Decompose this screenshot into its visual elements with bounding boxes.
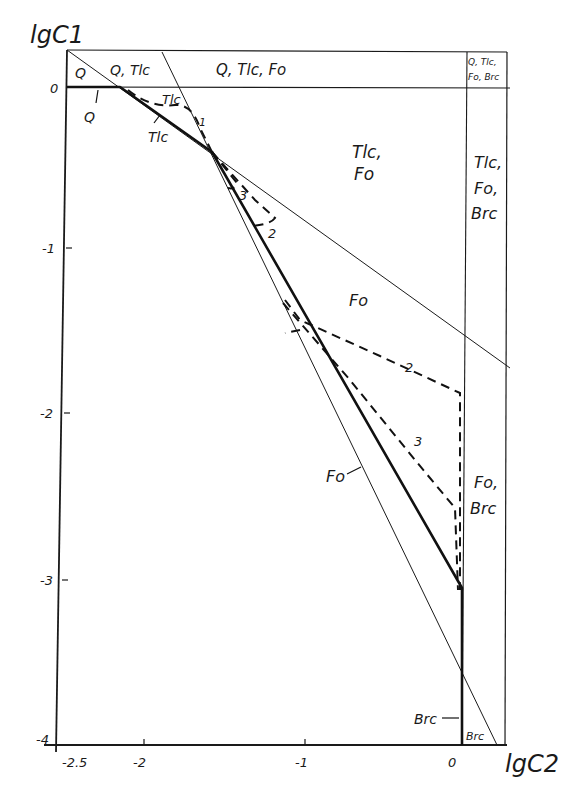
top-border [67, 50, 507, 52]
arrows [96, 90, 459, 718]
fo-arrow-icon [347, 467, 361, 474]
x-tick-3: 0 [448, 755, 456, 770]
thin-lines [67, 50, 510, 745]
field-corner-1: Q, Tlc, [468, 57, 497, 67]
label-tlc-dash: Tlc [162, 92, 181, 107]
zero-line [67, 87, 510, 88]
field-fo: Fo [349, 291, 368, 310]
field-right-fo: Fo, [474, 179, 498, 198]
axes [44, 50, 510, 752]
phase-diagram: lgC1 lgC2 0 -1 -2 -3 -4 -2.5 -2 -1 0 Q Q… [0, 0, 563, 808]
x-tick-1: -2 [133, 755, 146, 770]
curve-3-upper [212, 152, 237, 188]
dashed-curves [128, 90, 460, 590]
field-q: Q [75, 65, 86, 81]
x-axis-title: lgC2 [505, 750, 559, 778]
field-right-brc: Brc [471, 204, 498, 223]
y-axis [56, 50, 67, 752]
x-tick-2: -1 [295, 755, 308, 770]
label-curve-3-upper: 3 [239, 188, 247, 203]
field-corner-2: Fo, Brc [468, 72, 499, 82]
label-curve-3-lower: 3 [414, 434, 422, 449]
label-curve-1: 1 [199, 116, 206, 129]
field-q-tlc-fo: Q, Tlc, Fo [216, 61, 286, 79]
q-arrow-icon [96, 90, 98, 103]
field-tlc-fo-2: Fo [354, 164, 374, 184]
field-q-tlc: Q, Tlc [110, 62, 150, 78]
label-fo-arrow: Fo [326, 467, 345, 486]
field-fo-brc-2: Brc [470, 499, 497, 518]
x-tick-0: -2.5 [62, 755, 87, 770]
right-border [505, 52, 507, 745]
field-fo-brc-1: Fo, [474, 473, 498, 492]
field-tlc-fo-1: Tlc, [352, 142, 382, 162]
curve-3-lower [283, 303, 458, 590]
label-curve-2-upper: 2 [268, 226, 276, 241]
field-brc-corner: Brc [466, 730, 484, 743]
y-tick-1: -1 [42, 241, 55, 256]
thin-diagonal-steep [162, 52, 497, 745]
curve-2-lower [285, 300, 460, 590]
y-tick-2: -2 [40, 406, 53, 421]
label-curve-2-lower: 2 [405, 360, 413, 375]
label-brc-arrow: Brc [414, 711, 437, 727]
tlc-arrow-icon [154, 115, 160, 123]
y-tick-3: -3 [40, 573, 53, 588]
label-q-arrow: Q [84, 109, 95, 125]
label-tlc-arrow: Tlc [148, 129, 168, 145]
field-right-tlc: Tlc, [474, 153, 502, 172]
bold-boundary [67, 87, 462, 745]
y-axis-title: lgC1 [30, 21, 84, 49]
y-tick-4: -4 [36, 732, 49, 747]
y-tick-0: 0 [50, 81, 58, 96]
